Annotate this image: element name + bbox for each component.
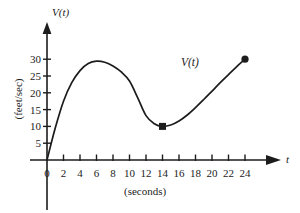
x-axis-unit-label: (seconds) xyxy=(124,186,166,197)
x-tick-label-16: 16 xyxy=(174,168,185,179)
y-tick-label-15: 15 xyxy=(30,104,41,115)
x-tick-label-8: 8 xyxy=(110,168,116,179)
x-tick-label-0: 0 xyxy=(44,168,50,179)
y-tick-label-20: 20 xyxy=(30,87,41,98)
local-minimum-marker xyxy=(159,123,166,130)
y-axis-title: V(t) xyxy=(52,7,69,18)
y-tick-label-5: 5 xyxy=(36,138,42,149)
velocity-curve xyxy=(47,59,245,160)
x-tick-label-6: 6 xyxy=(94,168,100,179)
y-tick-label-25: 25 xyxy=(30,71,41,82)
x-tick-label-18: 18 xyxy=(190,168,201,179)
y-axis-arrowhead xyxy=(43,22,52,34)
right-endpoint-marker xyxy=(241,56,248,63)
x-tick-label-12: 12 xyxy=(141,168,152,179)
x-tick-label-10: 10 xyxy=(124,168,135,179)
velocity-graph-figure: V(t) t (feet/sec) (seconds) V(t) 5101520… xyxy=(0,0,300,213)
y-tick-label-10: 10 xyxy=(30,121,41,132)
x-axis-title: t xyxy=(286,154,289,165)
plot-canvas xyxy=(0,0,300,213)
x-tick-label-4: 4 xyxy=(77,168,83,179)
x-axis-arrowhead xyxy=(266,155,281,165)
curve-label: V(t) xyxy=(181,57,199,69)
y-axis-unit-label: (feet/sec) xyxy=(13,79,24,120)
x-tick-label-14: 14 xyxy=(157,168,168,179)
x-tick-label-20: 20 xyxy=(207,168,218,179)
x-tick-label-22: 22 xyxy=(223,168,234,179)
y-tick-label-30: 30 xyxy=(30,54,41,65)
x-tick-label-2: 2 xyxy=(61,168,67,179)
x-tick-label-24: 24 xyxy=(240,168,251,179)
